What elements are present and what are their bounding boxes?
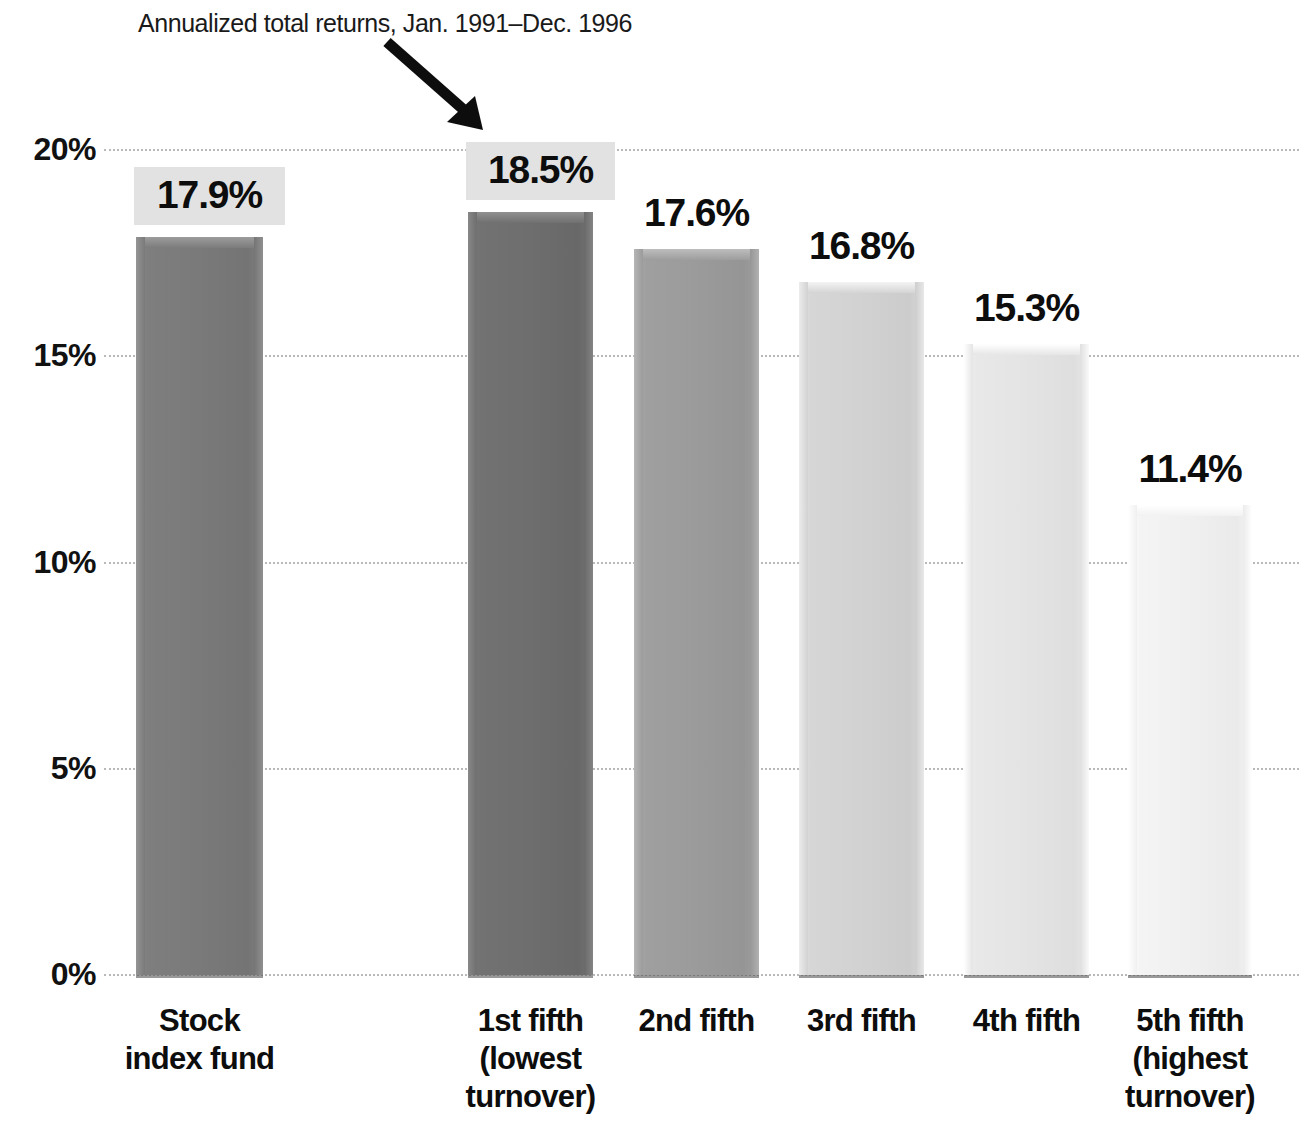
- x-axis-category-label: 5th fifth (highest turnover): [1080, 1002, 1300, 1116]
- y-axis-tick-label: 5%: [4, 752, 96, 784]
- y-axis-tick: 5%: [0, 752, 96, 784]
- y-axis-tick-label: 10%: [4, 546, 96, 578]
- y-axis-tick-label: 20%: [4, 133, 96, 165]
- bar-baseline-shadow: [468, 975, 593, 978]
- bar-value-label: 15.3%: [949, 286, 1104, 330]
- bar-face: [964, 344, 1089, 975]
- bar-value-label: 17.6%: [619, 191, 774, 235]
- y-axis-tick-label: 15%: [4, 339, 96, 371]
- plot-area: 0%5%10%15%20%17.9%Stock index fund18.5%1…: [0, 0, 1305, 1146]
- bar-value-label: 11.4%: [1113, 447, 1267, 491]
- bar-face: [634, 249, 759, 975]
- y-axis-tick: 10%: [0, 546, 96, 578]
- bar[interactable]: [634, 249, 759, 975]
- bar-face: [468, 212, 593, 975]
- bar[interactable]: [136, 237, 263, 975]
- bar-value-label: 17.9%: [134, 167, 285, 225]
- bar-value-label: 16.8%: [784, 224, 939, 268]
- bar-baseline-shadow: [1128, 975, 1252, 978]
- y-axis-tick: 0%: [0, 958, 96, 990]
- bar[interactable]: [799, 282, 924, 975]
- bar[interactable]: [1128, 505, 1252, 975]
- bar-baseline-shadow: [634, 975, 759, 978]
- y-axis-tick: 20%: [0, 133, 96, 165]
- bar-baseline-shadow: [136, 975, 263, 978]
- chart-figure: Returns beat the index Annualized total …: [0, 0, 1305, 1146]
- bar-baseline-shadow: [799, 975, 924, 978]
- gridline-20: [104, 149, 1299, 151]
- bar[interactable]: [468, 212, 593, 975]
- x-axis-category-label: Stock index fund: [88, 1002, 311, 1078]
- bar-face: [136, 237, 263, 975]
- bar-baseline-shadow: [964, 975, 1089, 978]
- bar-face: [1128, 505, 1252, 975]
- bar[interactable]: [964, 344, 1089, 975]
- bar-value-label: 18.5%: [466, 142, 615, 200]
- y-axis-tick: 15%: [0, 339, 96, 371]
- bar-face: [799, 282, 924, 975]
- y-axis-tick-label: 0%: [4, 958, 96, 990]
